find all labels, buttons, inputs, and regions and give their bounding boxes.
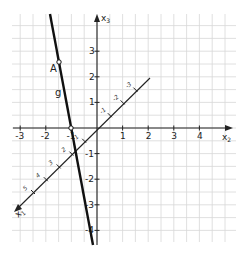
x1-tick-label: 5 [21,184,29,192]
x3-tick-label: -2 [85,174,94,184]
x1-tick-label: 2 [60,145,68,153]
x3-tick-label: 3 [89,46,95,56]
x1-tick-label: -3 [124,80,133,89]
intersection-point [69,126,73,130]
x1-axis: x1 12345-1-2-3 [13,78,150,220]
x2-axis: x2 -3-2-11234 [13,125,233,143]
x2-tick-label: 3 [171,131,177,141]
x1-tick-label: -2 [111,93,120,102]
x2-tick-label: 4 [197,131,203,141]
x1-tick-label: 3 [47,158,55,166]
x2-tick-label: -2 [41,131,50,141]
x3-axis-label: x3 [101,13,110,24]
x3-tick-label: 1 [89,97,95,107]
x2-tick-label: 2 [146,131,152,141]
x3-tick-label: -1 [85,149,94,159]
x2-tick-label: -3 [15,131,24,141]
x2-axis-label: x2 [222,132,231,143]
line-g-label: g [55,87,61,98]
intersection-marker-icon [69,126,73,130]
x1-tick-label: 4 [34,171,42,179]
x1-tick-label: -1 [98,106,107,115]
point-a-marker-icon [57,60,61,64]
x3-arrow-icon [94,14,100,22]
x2-arrow-icon [225,125,233,131]
x2-tick-label: 1 [120,131,126,141]
coordinate-diagram: x2 -3-2-11234 x3 321-1-2-3-4 x1 12345-1-… [0,0,244,254]
point-a-label: A [50,63,57,74]
x3-tick-label: 2 [89,72,95,82]
